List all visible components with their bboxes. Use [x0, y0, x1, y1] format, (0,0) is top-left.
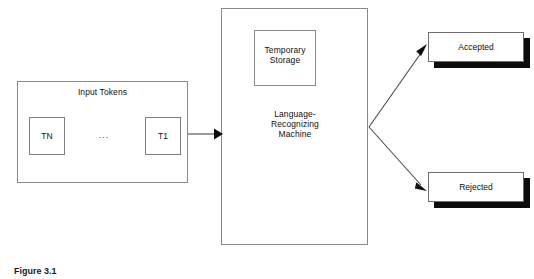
rejected-label: Rejected [428, 182, 524, 192]
token-ellipsis: ... [86, 130, 122, 141]
accepted-label: Accepted [428, 42, 524, 52]
token-tn-label: TN [29, 131, 65, 141]
token-t1-label: T1 [145, 131, 181, 141]
arrow-input-to-machine [188, 129, 223, 140]
arrow-machine-to-accepted [369, 44, 427, 127]
figure-caption: Figure 3.1 [14, 266, 57, 276]
arrow-machine-to-rejected [369, 127, 427, 191]
diagram-canvas: Input Tokens TN ... T1 Temporary Storage… [0, 0, 534, 279]
input-tokens-title: Input Tokens [17, 87, 188, 97]
temporary-storage-label: Temporary Storage [254, 45, 316, 65]
language-recognizing-machine-label: Language- Recognizing Machine [249, 109, 341, 139]
